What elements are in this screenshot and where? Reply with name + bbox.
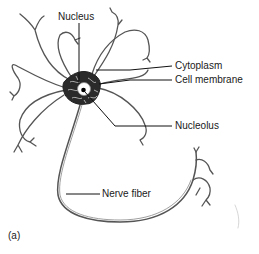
cytoplasm-label: Cytoplasm — [175, 61, 222, 71]
nerve-fiber-label: Nerve fiber — [102, 189, 151, 199]
neuron-drawing — [0, 0, 259, 254]
panel-label: (a) — [8, 231, 20, 241]
nucleolus-label: Nucleolus — [175, 121, 219, 131]
nucleus-label: Nucleus — [58, 12, 94, 22]
neuron-diagram: Nucleus Cytoplasm Cell membrane Nucleolu… — [0, 0, 259, 254]
cytoplasm-leader — [130, 66, 172, 70]
cell-membrane-label: Cell membrane — [175, 75, 243, 85]
